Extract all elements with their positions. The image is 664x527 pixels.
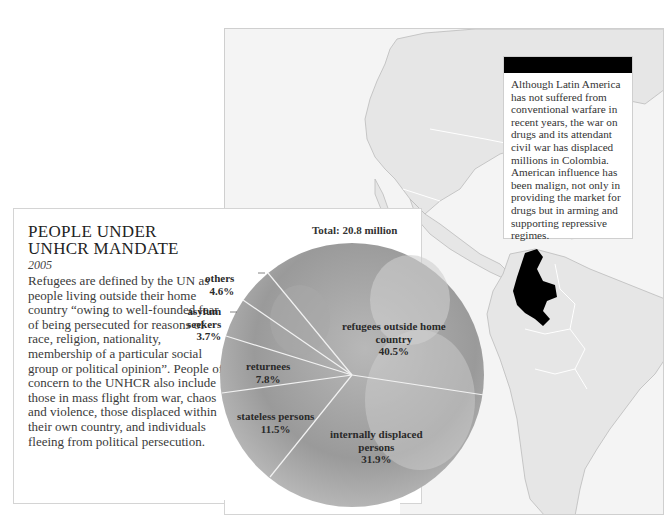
label-returnees: returnees 7.8% <box>246 360 290 385</box>
label-refugees: refugees outside home country 40.5% <box>342 320 446 358</box>
label-others: others 4.6% <box>205 272 234 297</box>
label-idp: internally displaced persons 31.9% <box>330 428 423 466</box>
label-stateless: stateless persons 11.5% <box>237 410 314 435</box>
label-asylum-seekers: asylum seekers 3.7% <box>187 305 221 343</box>
